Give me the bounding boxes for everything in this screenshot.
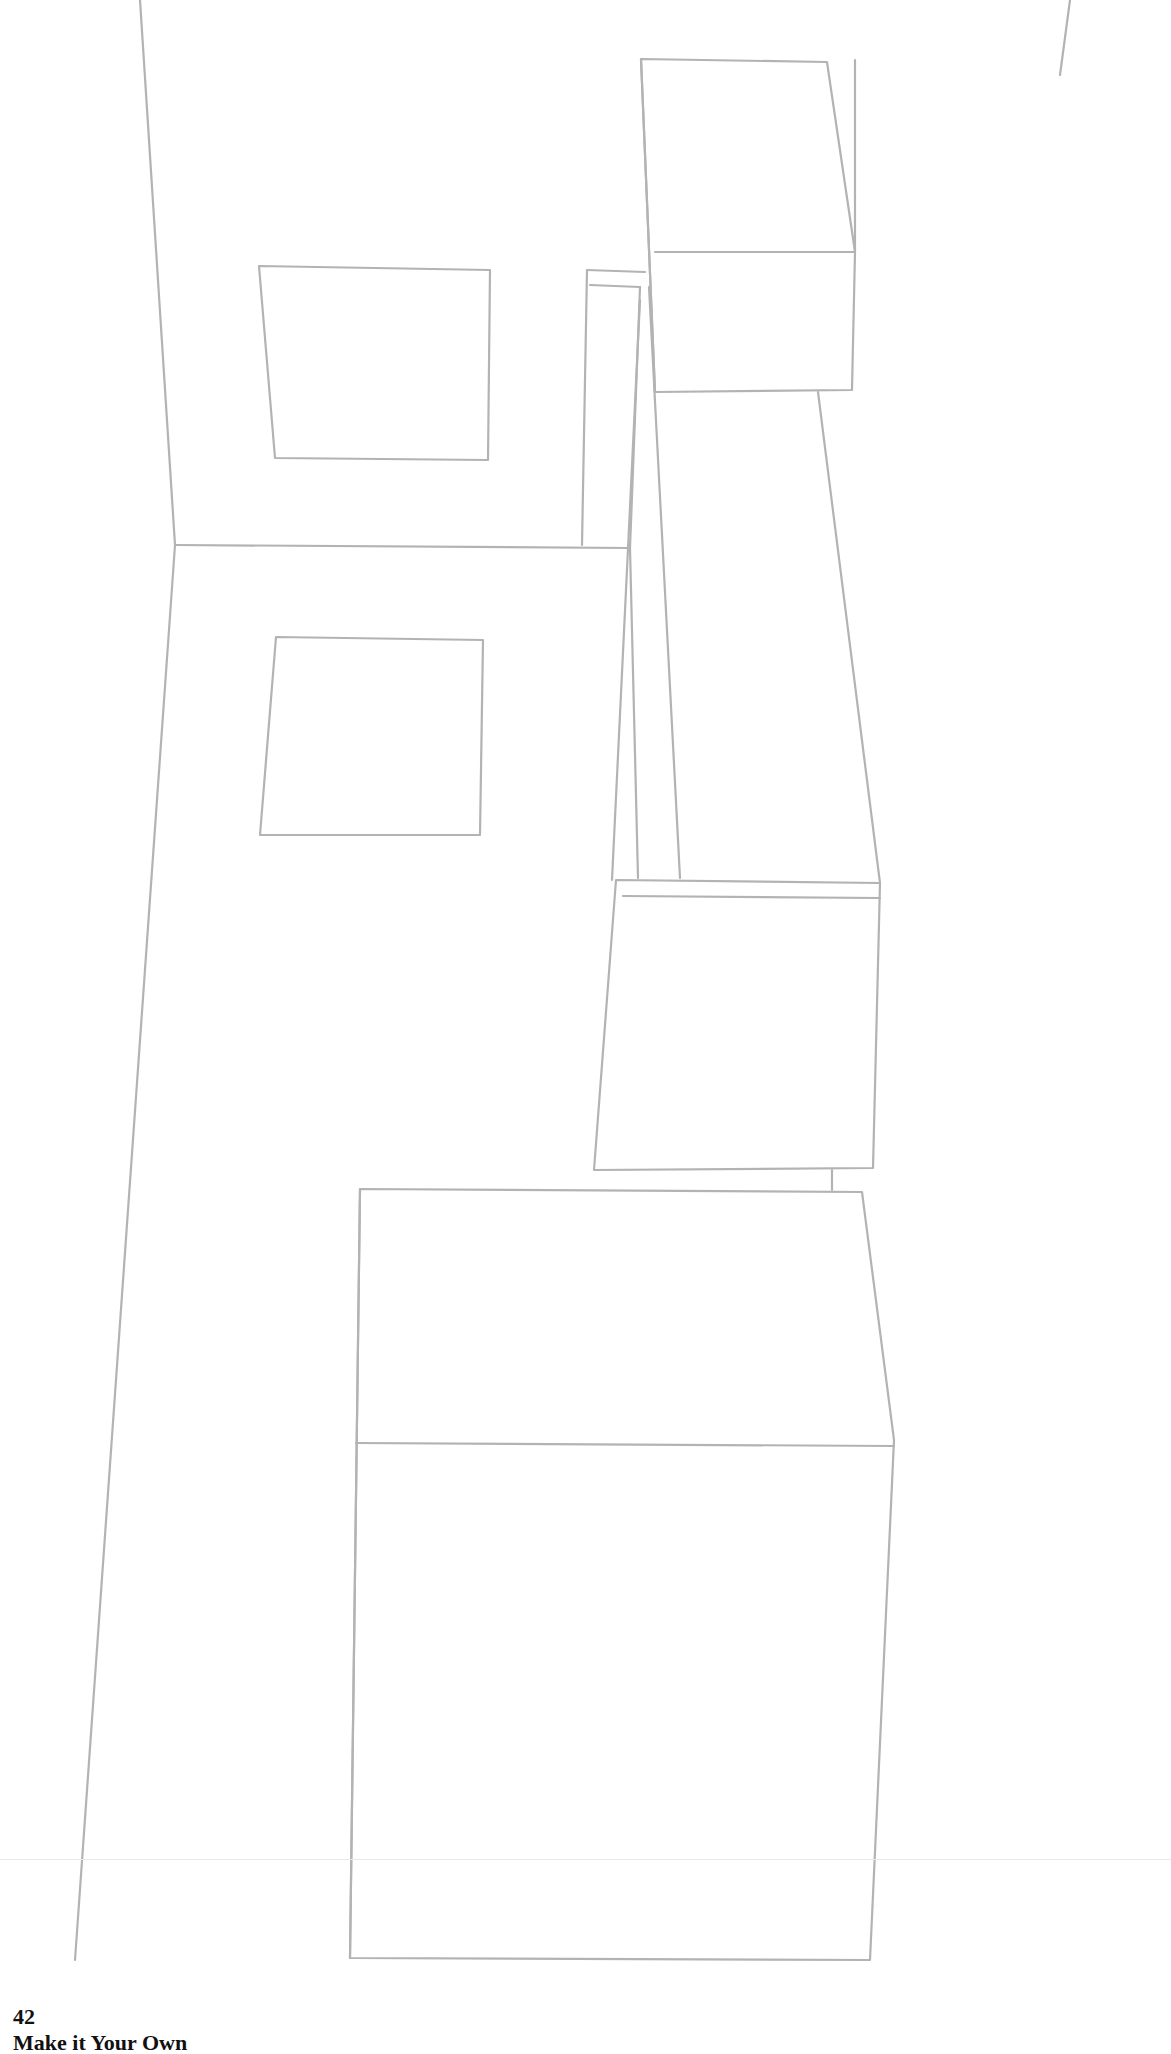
perspective-line [630, 548, 638, 878]
perspective-line [140, 0, 175, 545]
chapter-title: Make it Your Own [13, 2030, 187, 2054]
bottom-box-mid [356, 1443, 894, 1446]
perspective-line [582, 270, 587, 545]
upper-right-cabinet-front [641, 59, 855, 392]
upper-wall-window [259, 266, 490, 460]
perspective-line [1060, 0, 1070, 75]
page-footer: 42 Make it Your Own [2, 1978, 187, 2054]
perspective-line [175, 545, 630, 548]
bottom-box [350, 1189, 894, 1960]
scan-artifact-line [0, 1859, 1171, 1860]
floor-rug [260, 637, 483, 835]
lower-right-cabinet [594, 880, 880, 1170]
perspective-line [818, 392, 880, 883]
perspective-line [587, 270, 645, 272]
perspective-line [590, 285, 640, 287]
perspective-line [75, 545, 175, 1960]
lower-right-cabinet-inner [623, 896, 880, 898]
page-number: 42 [13, 2004, 35, 2029]
